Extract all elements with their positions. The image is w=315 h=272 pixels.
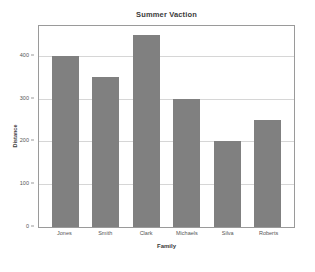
bar[interactable] (133, 35, 160, 227)
bar[interactable] (52, 56, 79, 227)
x-tick-label: Smith (92, 230, 119, 242)
plot-area (38, 25, 295, 228)
y-tick-mark (31, 140, 34, 141)
x-tick-label: Roberts (255, 230, 282, 242)
bar[interactable] (92, 77, 119, 227)
x-tick-label: Silva (214, 230, 241, 242)
y-tick-label: 100 (20, 180, 29, 186)
y-tick-label: 400 (20, 52, 29, 58)
x-tick-label: Jones (51, 230, 78, 242)
y-tick-label: 200 (20, 137, 29, 143)
chart-figure: Summer Vaction 0100200300400 Distance Jo… (0, 0, 315, 272)
x-axis-ticks: JonesSmithClarkMichaelsSilvaRoberts (38, 230, 295, 242)
y-tick-mark (31, 183, 34, 184)
y-tick-mark (31, 54, 34, 55)
y-tick-mark (31, 226, 34, 227)
y-tick-label: 0 (26, 223, 29, 229)
x-axis-label: Family (38, 243, 295, 249)
x-tick-label: Michaels (173, 230, 200, 242)
y-tick-mark (31, 97, 34, 98)
bar[interactable] (254, 120, 281, 227)
bars-group (39, 26, 294, 227)
y-axis-label: Distance (12, 125, 18, 148)
y-tick-label: 300 (20, 95, 29, 101)
chart-title: Summer Vaction (38, 10, 295, 19)
bar[interactable] (173, 99, 200, 227)
x-tick-label: Clark (133, 230, 160, 242)
bar[interactable] (214, 141, 241, 227)
